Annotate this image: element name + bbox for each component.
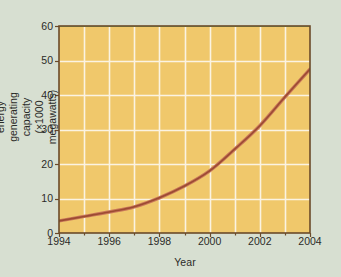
x-tick-label: 2004: [298, 236, 321, 247]
x-tick-label: 1998: [148, 236, 171, 247]
x-tick-label: 2000: [198, 236, 221, 247]
x-tick-label: 2002: [248, 236, 271, 247]
y-axis-title-wrap: World wind energy generating capacity (×…: [0, 0, 40, 233]
y-axis-title: World wind energy generating capacity (×…: [0, 89, 59, 143]
y-axis-title-line2: capacity (×1000 megawatts): [20, 89, 58, 143]
x-tick-label: 1996: [98, 236, 121, 247]
y-axis-title-line1: World wind energy generating: [0, 91, 19, 143]
x-tick-label: 1994: [47, 236, 70, 247]
chart-figure: 0102030405060 199419961998200020022004 W…: [0, 0, 341, 277]
plot-background: [59, 26, 310, 233]
x-axis-title: Year: [59, 256, 311, 268]
